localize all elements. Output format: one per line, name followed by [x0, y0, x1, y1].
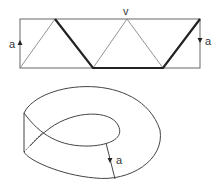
- thin-edge: [93, 19, 127, 68]
- flat-strip: a a v: [9, 5, 212, 68]
- inner-boundary: [24, 113, 120, 146]
- down-arrow-icon: [198, 38, 203, 43]
- mobius-band: [24, 87, 160, 179]
- vertex-label: v: [123, 5, 129, 17]
- thin-edge: [127, 19, 163, 68]
- band-edge-label: a: [116, 154, 123, 166]
- left-edge-label: a: [9, 38, 16, 50]
- up-arrow-icon: [18, 40, 23, 45]
- thin-edge: [20, 19, 55, 68]
- mobius-diagram: a a v a: [0, 0, 220, 192]
- down-arrow-icon: [108, 158, 113, 163]
- right-edge-label: a: [205, 35, 212, 47]
- thick-path: [55, 19, 200, 68]
